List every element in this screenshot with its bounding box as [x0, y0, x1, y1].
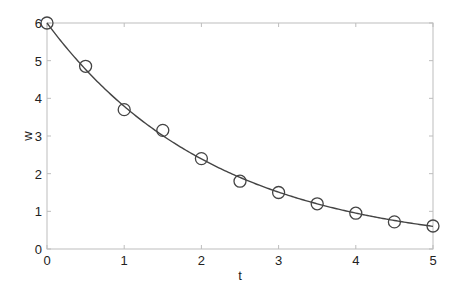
x-tick-label: 2 — [198, 253, 205, 268]
axes-frame — [47, 23, 433, 249]
y-tick-label: 2 — [35, 167, 42, 182]
x-tick-label: 5 — [429, 253, 436, 268]
y-tick-label: 5 — [35, 54, 42, 69]
data-markers — [41, 17, 439, 232]
data-point-marker — [80, 60, 92, 72]
data-point-marker — [157, 124, 169, 136]
x-tick-label: 3 — [275, 253, 282, 268]
chart: 012345 0123456 t w — [0, 0, 459, 295]
y-tick-label: 0 — [35, 242, 42, 257]
y-tick-label: 3 — [35, 129, 42, 144]
y-axis-label: w — [20, 131, 35, 142]
fit-curve — [47, 23, 433, 226]
x-axis-ticks: 012345 — [43, 23, 436, 268]
y-tick-label: 1 — [35, 204, 42, 219]
y-axis-ticks: 0123456 — [35, 16, 433, 257]
x-axis-label: t — [238, 268, 242, 283]
x-tick-label: 0 — [43, 253, 50, 268]
y-tick-label: 4 — [35, 91, 42, 106]
x-tick-label: 4 — [352, 253, 359, 268]
axes-box — [47, 23, 433, 249]
x-tick-label: 1 — [121, 253, 128, 268]
